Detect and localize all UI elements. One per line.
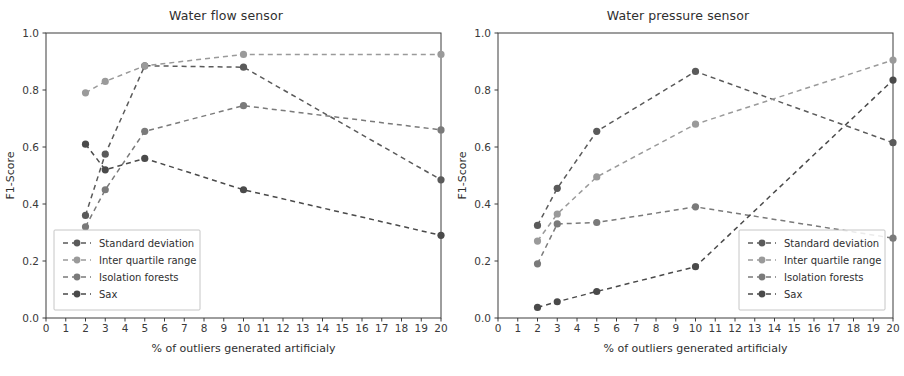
legend-marker-isolation-forests — [759, 274, 766, 281]
x-tick-label: 5 — [141, 322, 148, 334]
data-point-sax — [593, 288, 600, 295]
legend-marker-standard-deviation — [759, 240, 766, 247]
data-point-inter-quartile-range — [692, 121, 699, 128]
x-tick-label: 6 — [613, 322, 620, 334]
legend-marker-inter-quartile-range — [759, 257, 766, 264]
x-tick-label: 19 — [415, 322, 428, 334]
y-tick-label: 0.6 — [474, 141, 491, 153]
data-point-isolation-forests — [692, 203, 699, 210]
data-point-standard-deviation — [554, 185, 561, 192]
y-tick-label: 0.0 — [22, 312, 39, 324]
x-tick-label: 11 — [257, 322, 270, 334]
y-axis-label: F1-Score — [4, 151, 17, 199]
data-point-sax — [437, 232, 444, 239]
x-tick-label: 20 — [886, 322, 899, 334]
y-tick-label: 1.0 — [22, 27, 39, 39]
x-tick-label: 14 — [768, 322, 782, 334]
x-axis-label: % of outliers generated artificialy — [152, 342, 336, 355]
x-tick-label: 19 — [867, 322, 880, 334]
chart-canvas-left: 0.00.20.40.60.81.00123456789101112131415… — [0, 0, 452, 376]
x-tick-label: 7 — [633, 322, 640, 334]
data-point-inter-quartile-range — [437, 51, 444, 58]
panel-water-flow-sensor: Water flow sensor 0.00.20.40.60.81.00123… — [0, 0, 452, 376]
legend-label-standard-deviation: Standard deviation — [99, 238, 194, 249]
x-tick-label: 13 — [296, 322, 309, 334]
chart-canvas-right: 0.00.20.40.60.81.00123456789101112131415… — [452, 0, 904, 376]
legend-marker-standard-deviation — [74, 240, 81, 247]
x-tick-label: 16 — [355, 322, 369, 334]
series-line-isolation-forests — [86, 106, 442, 227]
series-line-standard-deviation — [538, 71, 894, 225]
x-tick-label: 1 — [62, 322, 69, 334]
x-tick-label: 8 — [201, 322, 208, 334]
x-tick-label: 7 — [181, 322, 188, 334]
y-tick-label: 0.4 — [474, 198, 491, 210]
data-point-isolation-forests — [554, 220, 561, 227]
series-line-inter-quartile-range — [538, 60, 894, 241]
data-point-inter-quartile-range — [141, 62, 148, 69]
x-tick-label: 15 — [336, 322, 349, 334]
y-axis-label: F1-Score — [456, 151, 469, 199]
legend-marker-sax — [74, 291, 81, 298]
legend-label-inter-quartile-range: Inter quartile range — [99, 255, 196, 266]
y-tick-label: 0.8 — [474, 84, 491, 96]
data-point-isolation-forests — [82, 223, 89, 230]
y-tick-label: 0.4 — [22, 198, 39, 210]
legend-label-sax: Sax — [784, 289, 802, 300]
x-tick-label: 15 — [788, 322, 801, 334]
legend-label-standard-deviation: Standard deviation — [784, 238, 879, 249]
legend-label-isolation-forests: Isolation forests — [99, 272, 179, 283]
x-tick-label: 10 — [689, 322, 702, 334]
legend-marker-inter-quartile-range — [74, 257, 81, 264]
x-tick-label: 18 — [847, 322, 860, 334]
x-tick-label: 10 — [237, 322, 250, 334]
x-tick-label: 14 — [316, 322, 330, 334]
data-point-sax — [534, 304, 541, 311]
data-point-isolation-forests — [240, 102, 247, 109]
data-point-sax — [141, 155, 148, 162]
data-point-standard-deviation — [82, 212, 89, 219]
x-tick-label: 0 — [43, 322, 50, 334]
y-tick-label: 0.6 — [22, 141, 39, 153]
data-point-standard-deviation — [692, 68, 699, 75]
x-tick-label: 9 — [220, 322, 227, 334]
data-point-standard-deviation — [102, 151, 109, 158]
x-tick-label: 3 — [554, 322, 561, 334]
data-point-sax — [102, 166, 109, 173]
x-tick-label: 6 — [161, 322, 168, 334]
chart-legend: Standard deviationInter quartile rangeIs… — [739, 230, 885, 310]
y-tick-label: 1.0 — [474, 27, 491, 39]
data-point-inter-quartile-range — [593, 173, 600, 180]
data-point-inter-quartile-range — [82, 89, 89, 96]
chart-legend: Standard deviationInter quartile rangeIs… — [54, 230, 200, 310]
y-tick-label: 0.0 — [474, 312, 491, 324]
data-point-sax — [82, 141, 89, 148]
data-point-standard-deviation — [593, 128, 600, 135]
panel-water-pressure-sensor: Water pressure sensor 0.00.20.40.60.81.0… — [452, 0, 904, 376]
data-point-sax — [692, 263, 699, 270]
data-point-standard-deviation — [240, 64, 247, 71]
series-line-sax — [86, 144, 442, 235]
x-tick-label: 20 — [434, 322, 447, 334]
data-point-isolation-forests — [593, 219, 600, 226]
data-point-isolation-forests — [141, 128, 148, 135]
data-point-inter-quartile-range — [889, 56, 896, 63]
data-point-isolation-forests — [102, 186, 109, 193]
x-tick-label: 2 — [534, 322, 541, 334]
data-point-inter-quartile-range — [102, 78, 109, 85]
series-line-inter-quartile-range — [86, 54, 442, 92]
data-point-isolation-forests — [889, 235, 896, 242]
x-tick-label: 12 — [276, 322, 289, 334]
x-tick-label: 16 — [807, 322, 821, 334]
legend-label-isolation-forests: Isolation forests — [784, 272, 864, 283]
data-point-standard-deviation — [534, 222, 541, 229]
x-tick-label: 12 — [728, 322, 741, 334]
y-tick-label: 0.2 — [22, 255, 39, 267]
y-tick-label: 0.8 — [22, 84, 39, 96]
data-point-sax — [240, 186, 247, 193]
x-tick-label: 9 — [672, 322, 679, 334]
legend-marker-sax — [759, 291, 766, 298]
x-tick-label: 3 — [102, 322, 109, 334]
data-point-sax — [889, 76, 896, 83]
legend-label-inter-quartile-range: Inter quartile range — [784, 255, 881, 266]
